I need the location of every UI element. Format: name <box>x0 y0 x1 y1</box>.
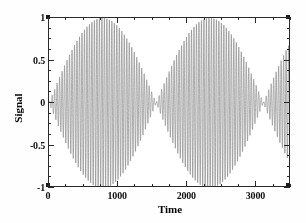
y-tick-mark-right <box>287 176 290 177</box>
x-tick-mark-top <box>238 17 239 20</box>
y-tick-mark <box>48 134 51 135</box>
y-tick-mark <box>48 17 54 18</box>
y-tick-mark-right <box>284 17 290 18</box>
x-tick-mark <box>204 184 205 187</box>
y-tick-mark-right <box>287 49 290 50</box>
x-tick-mark <box>186 181 187 187</box>
x-tick-mark <box>238 184 239 187</box>
x-axis-title: Time <box>0 203 306 215</box>
y-tick-label: -1 <box>37 182 45 193</box>
y-tick-mark <box>48 145 54 146</box>
y-tick-mark-right <box>287 113 290 114</box>
y-axis-title: Signal <box>12 78 24 138</box>
x-tick-label: 1000 <box>108 190 127 201</box>
y-tick-label: 0 <box>40 97 45 108</box>
y-tick-mark-right <box>287 123 290 124</box>
y-tick-mark-right <box>287 134 290 135</box>
x-tick-label: 2000 <box>177 190 196 201</box>
x-tick-mark-top <box>221 17 222 20</box>
y-tick-label: 1 <box>40 12 45 23</box>
signal-trace <box>49 18 290 187</box>
chart-figure: 0100020003000 -1-0.500.51 Time Signal <box>0 0 306 223</box>
x-tick-mark-top <box>134 17 135 20</box>
y-tick-mark-right <box>287 166 290 167</box>
y-tick-mark <box>48 70 51 71</box>
y-tick-mark <box>48 91 51 92</box>
y-tick-mark-right <box>284 145 290 146</box>
y-tick-mark-right <box>287 81 290 82</box>
y-tick-mark-right <box>287 155 290 156</box>
y-axis-title-label: Signal <box>12 93 24 122</box>
x-tick-mark <box>83 184 84 187</box>
y-tick-mark-right <box>287 28 290 29</box>
x-tick-label: 0 <box>46 190 51 201</box>
y-tick-mark <box>48 123 51 124</box>
x-tick-mark <box>273 184 274 187</box>
x-tick-mark <box>255 181 256 187</box>
y-tick-mark-right <box>284 187 290 188</box>
y-tick-mark <box>48 102 54 103</box>
y-tick-label: -0.5 <box>30 139 45 150</box>
x-tick-mark-top <box>204 17 205 20</box>
x-tick-mark <box>134 184 135 187</box>
x-tick-mark-top <box>169 17 170 20</box>
y-tick-label: 0.5 <box>33 54 45 65</box>
x-tick-mark <box>169 184 170 187</box>
x-axis-title-label: Time <box>124 203 182 215</box>
x-tick-mark <box>100 184 101 187</box>
y-tick-mark-right <box>287 38 290 39</box>
x-tick-mark-top <box>117 17 118 23</box>
x-tick-label: 3000 <box>246 190 265 201</box>
y-tick-mark <box>48 166 51 167</box>
x-tick-mark <box>221 184 222 187</box>
x-tick-mark-top <box>83 17 84 20</box>
x-tick-mark-top <box>100 17 101 20</box>
x-tick-mark-top <box>290 17 291 20</box>
x-tick-mark <box>290 184 291 187</box>
y-tick-mark <box>48 28 51 29</box>
x-tick-mark <box>152 184 153 187</box>
y-tick-mark <box>48 187 54 188</box>
plot-area <box>48 17 290 187</box>
x-tick-mark-top <box>186 17 187 23</box>
x-tick-mark-top <box>65 17 66 20</box>
x-tick-mark-top <box>255 17 256 23</box>
x-tick-mark <box>65 184 66 187</box>
x-tick-mark <box>117 181 118 187</box>
y-tick-mark <box>48 49 51 50</box>
y-tick-mark <box>48 113 51 114</box>
y-tick-mark-right <box>284 60 290 61</box>
x-tick-mark-top <box>152 17 153 20</box>
y-tick-mark-right <box>284 102 290 103</box>
y-tick-mark-right <box>287 70 290 71</box>
y-tick-mark <box>48 81 51 82</box>
y-tick-mark <box>48 60 54 61</box>
y-tick-mark-right <box>287 91 290 92</box>
y-tick-mark <box>48 176 51 177</box>
x-tick-mark-top <box>273 17 274 20</box>
y-tick-mark <box>48 38 51 39</box>
y-tick-mark <box>48 155 51 156</box>
